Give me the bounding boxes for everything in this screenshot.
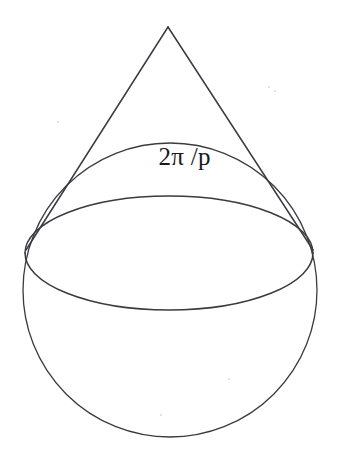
scan-speckle [160, 414, 162, 416]
scan-speckle [228, 378, 230, 380]
base-ellipse-back-arc [25, 196, 313, 253]
base-ellipse-front-arc [25, 253, 313, 310]
figure-canvas: 2π /p [0, 0, 337, 459]
cone-angle-label-text: 2π /p [158, 142, 210, 172]
scan-speckle [268, 86, 270, 88]
cone-sphere-diagram [0, 0, 337, 459]
cone-angle-label: 2π /p [0, 112, 337, 202]
scan-speckle [274, 90, 276, 92]
